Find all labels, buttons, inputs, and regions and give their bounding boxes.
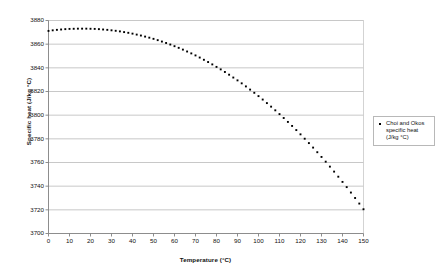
legend: Choi and Okos specific heat (J/kg °C) — [373, 116, 435, 146]
plot-background — [49, 21, 364, 234]
x-tick-label: 150 — [352, 238, 376, 244]
y-tick-label: 3700 — [18, 230, 44, 236]
x-axis-title: Temperature (°C) — [48, 256, 363, 263]
y-axis-title: Specific heat (J/kg °C) — [25, 32, 32, 192]
y-tick-label: 3720 — [18, 207, 44, 213]
y-tick-label: 3880 — [18, 17, 44, 23]
chart-figure: 3700372037403760378038003820384038603880… — [0, 0, 445, 276]
x-axis-tick-labels: 0102030405060708090100110120130140150 — [0, 238, 445, 250]
legend-item-label: Choi and Okos specific heat (J/kg °C) — [386, 120, 432, 142]
legend-marker-icon — [377, 120, 384, 127]
